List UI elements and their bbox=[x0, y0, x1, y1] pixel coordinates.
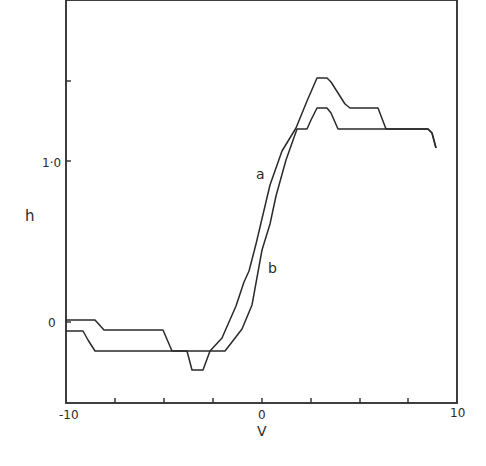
x-axis-label: V bbox=[257, 423, 267, 439]
y-axis-label: h bbox=[25, 207, 35, 225]
curve-a bbox=[66, 78, 436, 370]
y-tick-label-0: 0 bbox=[48, 316, 56, 330]
plot-frame bbox=[66, 0, 457, 403]
chart: a b h V -10 0 10 0 1·0 bbox=[0, 0, 486, 466]
x-tick-label-minus10: -10 bbox=[59, 408, 79, 422]
curve-b bbox=[66, 108, 436, 351]
curve-a-label: a bbox=[256, 166, 265, 182]
x-tick-label-10: 10 bbox=[450, 406, 465, 420]
y-tick-label-1: 1·0 bbox=[42, 156, 61, 170]
x-tick-label-0: 0 bbox=[258, 408, 266, 422]
curve-b-label: b bbox=[268, 260, 277, 276]
